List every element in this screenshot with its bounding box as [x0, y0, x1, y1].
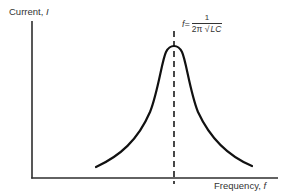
- square-root-icon: √LC: [205, 25, 223, 34]
- resonance-formula: f= 1 2π √LC: [182, 14, 222, 34]
- formula-radicand: LC: [209, 23, 222, 34]
- y-axis-label-text: Current,: [9, 6, 46, 17]
- formula-two-pi: 2π: [192, 24, 205, 34]
- formula-numerator: 1: [205, 14, 209, 23]
- formula-lhs: f=: [182, 19, 190, 29]
- resonance-diagram: [0, 0, 292, 193]
- formula-denominator: 2π √LC: [192, 23, 223, 34]
- y-axis-label: Current, I: [9, 6, 49, 17]
- formula-fraction: 1 2π √LC: [192, 14, 223, 34]
- x-axis-label: Frequency, f: [214, 180, 266, 191]
- x-axis-symbol: f: [263, 180, 266, 191]
- x-axis-label-text: Frequency,: [214, 180, 263, 191]
- y-axis-symbol: I: [46, 6, 49, 17]
